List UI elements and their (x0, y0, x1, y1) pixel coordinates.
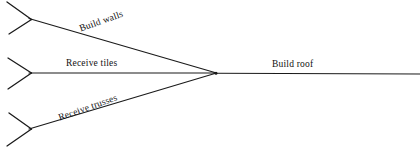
network-diagram (0, 0, 420, 152)
fork-build-walls-lower-stroke (9, 20, 32, 35)
fork-receive-tiles (8, 58, 32, 89)
fork-receive-tiles-upper-stroke (8, 58, 32, 73)
fork-receive-trusses (7, 113, 32, 146)
edge-build-walls (29, 19, 217, 74)
edge-label-build-roof: Build roof (272, 59, 313, 69)
edge-build-roof (214, 73, 420, 74)
edge-receive-trusses (29, 73, 217, 129)
fork-receive-trusses-lower-stroke (7, 129, 32, 146)
diagram-canvas: Build walls Receive tiles Receive trusse… (0, 0, 420, 152)
fork-build-walls (7, 2, 32, 34)
fork-receive-trusses-upper-stroke (9, 113, 32, 129)
fork-build-walls-upper-stroke (7, 2, 32, 20)
merge-node (215, 72, 218, 75)
fork-receive-tiles-lower-stroke (8, 73, 32, 89)
edge-label-receive-tiles: Receive tiles (66, 58, 117, 68)
